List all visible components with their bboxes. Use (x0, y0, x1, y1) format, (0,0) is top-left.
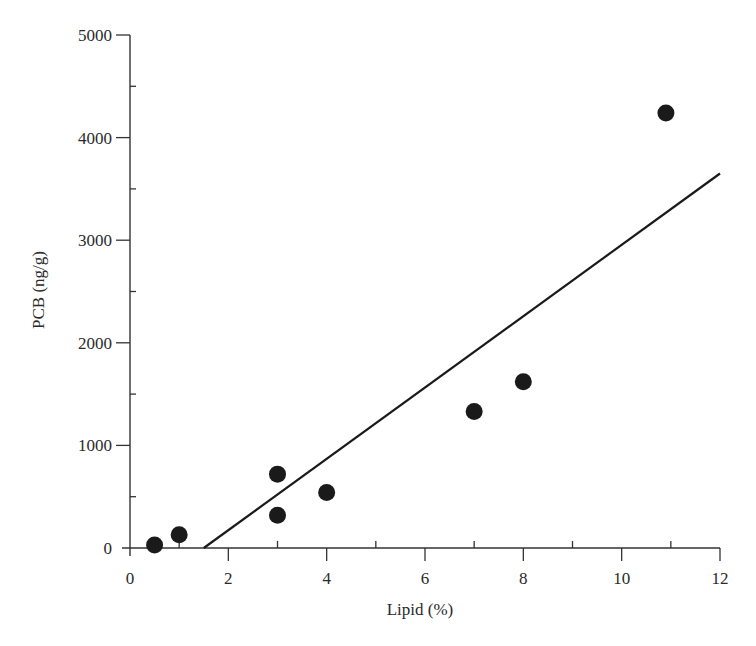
y-tick-label: 5000 (78, 26, 112, 45)
scatter-chart: 010002000300040005000 024681012 Lipid (%… (0, 0, 756, 646)
x-tick-label: 0 (126, 569, 135, 588)
x-tick-label: 12 (712, 569, 729, 588)
y-tick-label: 0 (104, 539, 113, 558)
x-tick-label: 4 (322, 569, 331, 588)
data-point (515, 373, 532, 390)
regression-line-path (204, 174, 720, 548)
x-tick-label: 10 (613, 569, 630, 588)
data-point (171, 526, 188, 543)
y-tick-label: 1000 (78, 436, 112, 455)
x-tick-label: 2 (224, 569, 233, 588)
data-point (269, 466, 286, 483)
data-point (657, 104, 674, 121)
data-point (466, 403, 483, 420)
data-point (269, 507, 286, 524)
y-axis-title: PCB (ng/g) (29, 251, 48, 329)
regression-line (204, 174, 720, 548)
y-axis-ticks: 010002000300040005000 (78, 26, 136, 558)
y-tick-label: 3000 (78, 231, 112, 250)
data-point (318, 484, 335, 501)
axes (122, 35, 720, 556)
x-axis-title: Lipid (%) (387, 600, 454, 619)
x-tick-label: 6 (421, 569, 430, 588)
data-points (146, 104, 674, 553)
data-point (146, 536, 163, 553)
y-tick-label: 2000 (78, 334, 112, 353)
y-tick-label: 4000 (78, 129, 112, 148)
x-tick-label: 8 (519, 569, 528, 588)
